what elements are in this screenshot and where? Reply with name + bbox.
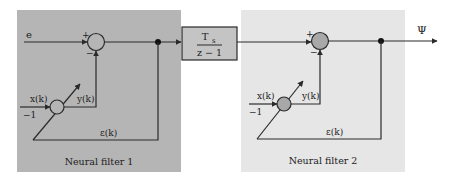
filter1-title: Neural filter 1 xyxy=(65,156,134,167)
sum1-plus-sign: + xyxy=(82,30,90,40)
bias-label-1: −1 xyxy=(23,110,36,120)
block-numerator: T xyxy=(202,31,209,42)
neuron-2 xyxy=(277,97,291,111)
input-label: e xyxy=(26,29,32,40)
y-label-1: y(k) xyxy=(76,94,95,104)
error-label-2: ε(k) xyxy=(326,127,343,137)
output-label: Ψ xyxy=(417,24,427,37)
error-label-1: ε(k) xyxy=(100,128,117,138)
neuron-1 xyxy=(50,100,64,114)
block-denominator: z − 1 xyxy=(197,47,222,58)
bias-label-2: −1 xyxy=(249,107,262,117)
y-label-2: y(k) xyxy=(301,91,320,101)
sum2-plus-sign: + xyxy=(306,29,314,39)
filter2-title: Neural filter 2 xyxy=(289,155,358,166)
sum1-minus-sign: − xyxy=(86,48,94,58)
block-numerator-subscript: s xyxy=(212,37,216,45)
x-label-1: x(k) xyxy=(30,94,48,104)
block-diagram: e + − ε(k) x(k) −1 y(k) Neural filter 1 … xyxy=(0,0,456,180)
x-label-2: x(k) xyxy=(257,91,275,101)
sum2-minus-sign: − xyxy=(310,47,318,57)
